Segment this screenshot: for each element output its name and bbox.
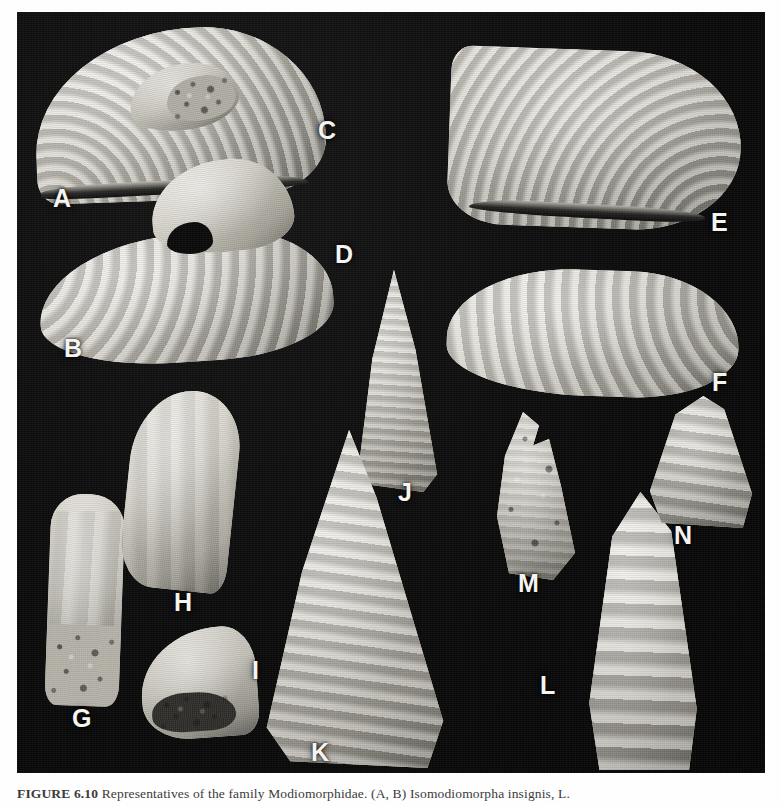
panel-label-g: G	[72, 706, 92, 731]
caption-text: Representatives of the family Modiomorph…	[102, 786, 570, 801]
specimen-plate	[17, 12, 765, 773]
figure-caption: FIGURE 6.10 Representatives of the famil…	[17, 784, 765, 803]
specimen-f-grain	[445, 265, 741, 401]
panel-label-e: E	[711, 210, 728, 235]
panel-label-b: B	[64, 336, 83, 361]
figure-root: A B C D E F G H I J K L M N FIGURE 6.10 …	[0, 0, 781, 806]
panel-label-h: H	[174, 590, 193, 615]
panel-label-n: N	[674, 523, 693, 548]
specimen-f	[445, 265, 741, 401]
specimen-g	[44, 493, 125, 707]
specimen-m-grain	[483, 412, 583, 580]
panel-label-k: K	[311, 740, 330, 765]
panel-label-l: L	[540, 673, 556, 698]
specimen-n	[643, 396, 759, 528]
panel-label-f: F	[712, 370, 728, 395]
specimen-g-grain	[44, 493, 125, 707]
panel-label-c: C	[318, 118, 337, 143]
panel-label-i: I	[252, 658, 259, 683]
specimen-m	[483, 412, 583, 580]
panel-label-a: A	[53, 186, 72, 211]
specimen-n-grain	[643, 396, 759, 528]
panel-label-d: D	[335, 242, 354, 267]
specimen-i	[137, 624, 260, 742]
specimen-i-grain	[137, 624, 260, 742]
panel-label-m: M	[518, 571, 539, 596]
specimen-h-grain	[117, 385, 245, 595]
panel-label-j: J	[398, 480, 412, 505]
specimen-h	[117, 385, 245, 595]
figure-number: FIGURE 6.10	[17, 786, 98, 801]
